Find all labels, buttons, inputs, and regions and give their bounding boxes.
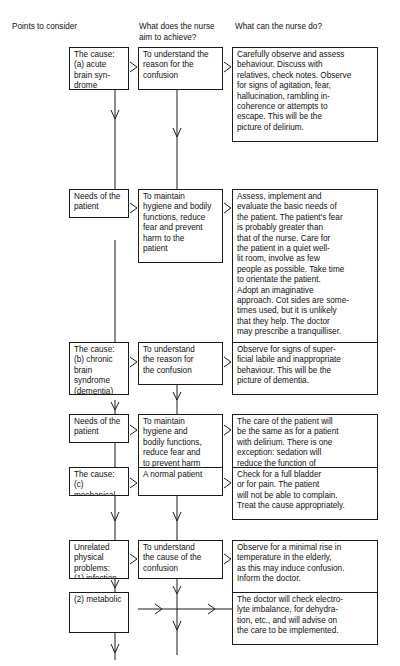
arrowhead-row6-col1-to-col2 <box>130 554 137 564</box>
arrowhead-row1-col1-to-col2 <box>130 62 137 72</box>
arrowhead-col2-row1-down <box>173 128 181 137</box>
node-aim-row-5-mechanical[interactable]: A normal patient <box>138 467 223 496</box>
column-header-points-to-consider: Points to consider <box>12 22 132 33</box>
arrowhead-col2-row6-tail-down-lower <box>173 621 181 630</box>
arrowhead-row7-right-first <box>155 604 162 614</box>
arrowhead-row7-right-second <box>208 604 215 614</box>
node-points-row-2-needs[interactable]: Needs of the patient <box>69 189 129 218</box>
column-header-nurse-action: What can the nurse do? <box>235 22 395 33</box>
arrowhead-col1-row5-down <box>111 512 119 521</box>
arrowhead-col2-row6-tail-down-upper <box>173 586 181 594</box>
node-points-row-7-metabolic[interactable]: (2) metabolic <box>69 592 129 633</box>
node-points-row-6-infection[interactable]: Unrelated physical problems: (1) infecti… <box>69 540 129 579</box>
arrowhead-col1-row1-down <box>111 110 119 119</box>
node-aim-row-3-dementia[interactable]: To understand the reason for the confusi… <box>138 342 223 385</box>
node-aim-row-6-infection[interactable]: To understand the cause of the confusion <box>138 540 223 579</box>
arrowhead-col2-row5-down <box>173 512 181 521</box>
node-points-row-1-delirium[interactable]: The cause: (a) acute brain syn- drome (d… <box>69 47 129 90</box>
arrowhead-row2-col2-to-col3 <box>224 203 231 213</box>
arrowhead-row6-col2-to-col3 <box>224 554 231 564</box>
arrowhead-col1-row6-down <box>111 580 119 588</box>
column-header-nurse-aim: What does the nurse aim to achieve? <box>139 22 234 43</box>
node-points-row-5-mechanical[interactable]: The cause: (c) mechanical <box>69 467 129 496</box>
node-action-row-6-infection[interactable]: Observe for a minimal rise in temperatur… <box>232 540 378 593</box>
node-action-row-1-delirium[interactable]: Carefully observe and assess behaviour. … <box>232 47 378 142</box>
node-points-row-3-dementia[interactable]: The cause: (b) chronic brain syndrome (d… <box>69 342 129 395</box>
flowchart-canvas: Points to consider What does the nurse a… <box>0 0 400 666</box>
node-points-row-4-needs[interactable]: Needs of the patient <box>69 414 129 443</box>
arrowhead-row4-col1-to-col2 <box>130 425 137 435</box>
arrowhead-row5-col1-to-col2 <box>130 478 137 488</box>
arrowhead-row5-col2-to-col3 <box>224 478 231 488</box>
arrowhead-row1-col2-to-col3 <box>224 62 231 72</box>
arrowhead-row2-col1-to-col2 <box>130 203 137 213</box>
arrowhead-row4-col2-to-col3 <box>224 425 231 435</box>
node-aim-row-2-needs[interactable]: To maintain hygiene and bodily functions… <box>138 189 223 263</box>
arrowhead-col1-row7-tail-down <box>111 644 119 653</box>
node-action-row-2-needs[interactable]: Assess, implement and evaluate the basic… <box>232 189 378 346</box>
node-aim-row-1-delirium[interactable]: To understand the reason for the confusi… <box>138 47 223 90</box>
arrowhead-row3-col2-to-col3 <box>224 357 231 367</box>
arrowhead-col1-row3-down <box>111 402 119 410</box>
arrowhead-col2-row3-down <box>173 392 181 400</box>
node-action-row-7-metabolic[interactable]: The doctor will check electro- lyte imba… <box>232 592 378 645</box>
node-action-row-5-mechanical[interactable]: Check for a full bladder or for pain. Th… <box>232 467 378 520</box>
node-action-row-3-dementia[interactable]: Observe for signs of super- ficial labil… <box>232 342 378 395</box>
arrowhead-row3-col1-to-col2 <box>130 357 137 367</box>
